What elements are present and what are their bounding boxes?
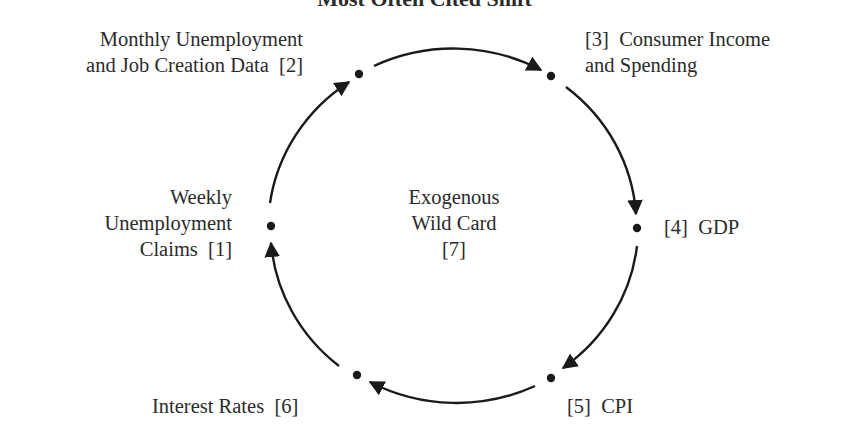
arrow-2-to-3 <box>374 49 541 70</box>
center-label-7: Exogenous Wild Card [7] <box>379 184 529 262</box>
node-2-line-2: and Job Creation Data [2] <box>86 52 303 78</box>
center-line-1: Exogenous <box>379 184 529 210</box>
node-6-line-1: Interest Rates [6] <box>152 393 298 419</box>
node-dot-3 <box>547 72 555 80</box>
node-dot-1 <box>267 222 275 230</box>
node-2-line-1: Monthly Unemployment <box>86 26 303 52</box>
node-3-line-1: [3] Consumer Income <box>585 26 770 52</box>
node-dot-6 <box>353 371 361 379</box>
node-label-1: Weekly Unemployment Claims [1] <box>104 184 232 262</box>
node-5-line-1: [5] CPI <box>567 393 633 419</box>
arrow-3-to-4 <box>566 87 636 214</box>
node-label-6: Interest Rates [6] <box>152 393 298 419</box>
node-label-5: [5] CPI <box>567 393 633 419</box>
node-dot-2 <box>355 70 363 78</box>
node-1-line-1: Weekly <box>104 184 232 210</box>
arrow-1-to-2 <box>270 82 349 203</box>
arrow-6-to-1 <box>271 243 339 366</box>
node-label-4: [4] GDP <box>664 214 739 240</box>
node-1-line-3: Claims [1] <box>104 236 232 262</box>
node-dot-4 <box>633 224 641 232</box>
node-3-line-2: and Spending <box>585 52 770 78</box>
arrow-4-to-5 <box>563 246 637 368</box>
node-dot-5 <box>547 374 555 382</box>
arrow-5-to-6 <box>370 382 535 403</box>
center-line-2: Wild Card <box>379 210 529 236</box>
center-line-3: [7] <box>379 236 529 262</box>
node-label-3: [3] Consumer Income and Spending <box>585 26 770 78</box>
node-4-line-1: [4] GDP <box>664 214 739 240</box>
node-1-line-2: Unemployment <box>104 210 232 236</box>
node-label-2: Monthly Unemployment and Job Creation Da… <box>86 26 303 78</box>
